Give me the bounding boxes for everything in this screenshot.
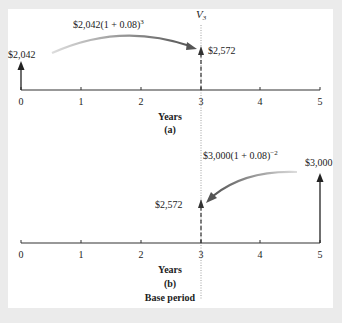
tick-label-a-3: 3 [199,97,204,107]
future-value-arrow-a [198,46,204,90]
formula-discount-exponent: −2 [270,149,277,157]
tick-label-b-3: 3 [199,250,204,260]
formula-compound-base: $2,042(1 + 0.08) [73,19,140,30]
discounting-curve-arrow [206,172,297,203]
tick-label-a-4: 4 [258,97,263,107]
caption-b: (b) [164,279,176,289]
v-subscript: 3 [203,14,207,22]
base-period-label: Base period [145,293,195,303]
axis-label-b: Years [158,265,182,275]
axis-label-a: Years [158,112,182,122]
tick-label-a-5: 5 [318,97,323,107]
tick-label-b-0: 0 [19,250,24,260]
cashflow-arrow-2042 [18,61,25,90]
formula-compound: $2,042(1 + 0.08)3 [73,20,144,30]
marker-label-v3: V3 [196,9,206,20]
value-2042-label: $2,042 [8,50,36,60]
formula-compound-exponent: 3 [140,18,144,26]
tick-label-a-2: 2 [139,97,144,107]
tick-label-a-0: 0 [19,97,24,107]
value-2572-label-a: $2,572 [208,46,236,56]
present-value-arrow-b [198,199,204,243]
cashflow-arrow-3000 [317,173,324,243]
formula-discount: $3,000(1 + 0.08)−2 [203,151,278,161]
tick-label-b-5: 5 [318,250,323,260]
compounding-curve-arrow [52,36,197,53]
timeline-a [21,87,320,90]
tick-label-b-4: 4 [258,250,263,260]
tick-label-a-1: 1 [79,97,84,107]
tick-label-b-1: 1 [79,250,84,260]
value-2572-label-b: $2,572 [155,200,183,210]
v-symbol: V [196,8,203,20]
value-3000-label: $3,000 [305,158,333,168]
timeline-b [21,240,320,243]
caption-a: (a) [164,125,176,135]
tick-label-b-2: 2 [139,250,144,260]
formula-discount-base: $3,000(1 + 0.08) [203,150,270,161]
